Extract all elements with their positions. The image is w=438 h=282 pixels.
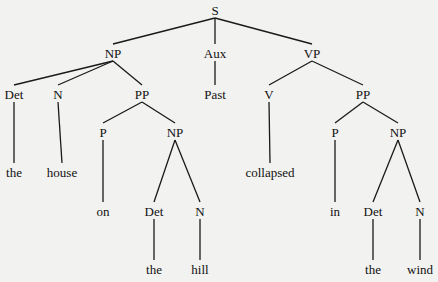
edge-n1-w_house	[58, 102, 62, 163]
tree-node-n3: N	[415, 205, 424, 218]
tree-node-w-on: on	[97, 205, 110, 218]
tree-node-np1: NP	[105, 47, 122, 60]
tree-node-aux: Aux	[204, 47, 226, 60]
tree-node-p2: P	[331, 126, 338, 139]
edge-s-np1	[113, 18, 215, 44]
edge-np2-det2	[154, 140, 175, 202]
edge-pp2-p2	[335, 102, 363, 123]
tree-node-w-the1: the	[6, 166, 22, 179]
tree-node-past: Past	[204, 88, 226, 101]
tree-edges	[0, 0, 438, 282]
edge-pp2-np3	[363, 102, 398, 123]
tree-node-s: S	[211, 4, 218, 17]
tree-node-v: V	[264, 88, 273, 101]
edge-np2-n2	[175, 140, 200, 202]
syntax-tree: SNPAuxVPDetNPPPastVPPthehousePNPcollapse…	[0, 0, 438, 282]
edge-vp-pp2	[312, 61, 363, 85]
tree-node-w-hill: hill	[191, 263, 208, 276]
tree-node-w-collapsed: collapsed	[245, 166, 294, 179]
tree-node-np2: NP	[167, 126, 184, 139]
edge-s-vp	[215, 18, 312, 44]
tree-node-pp1: PP	[135, 88, 149, 101]
tree-node-w-house: house	[47, 166, 77, 179]
tree-node-w-wind: wind	[407, 263, 433, 276]
tree-node-w-in: in	[330, 205, 340, 218]
edge-pp1-np2	[142, 102, 175, 123]
tree-node-pp2: PP	[356, 88, 370, 101]
tree-node-w-the3: the	[365, 263, 381, 276]
edge-np1-pp1	[113, 61, 142, 85]
edge-vp-v	[269, 61, 312, 85]
tree-node-det3: Det	[364, 205, 383, 218]
tree-node-np3: NP	[390, 126, 407, 139]
tree-node-p1: P	[99, 126, 106, 139]
tree-node-det2: Det	[145, 205, 164, 218]
tree-node-vp: VP	[304, 47, 321, 60]
tree-node-n2: N	[195, 205, 204, 218]
edge-np3-n3	[398, 140, 420, 202]
edge-np1-det1	[14, 61, 113, 85]
tree-node-det1: Det	[5, 88, 24, 101]
edge-np3-det3	[373, 140, 398, 202]
tree-node-n1: N	[53, 88, 62, 101]
edge-v-w_collapsed	[269, 102, 270, 163]
edge-pp1-p1	[103, 102, 142, 123]
tree-node-w-the2: the	[146, 263, 162, 276]
